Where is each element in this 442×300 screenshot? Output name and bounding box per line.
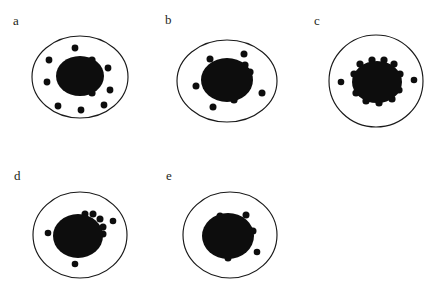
particle [210,104,217,111]
panel-label-c: c [314,13,320,28]
particle [72,45,79,52]
particle [259,90,266,97]
particle [78,107,85,114]
particle [44,79,51,86]
particle [90,211,97,218]
particle [72,261,79,268]
particle [411,77,418,84]
particle [110,218,117,225]
particle [254,249,261,256]
panel-label-e: e [166,168,172,183]
figure-canvas: abcde [0,0,442,300]
panel-label-d: d [14,168,21,183]
nucleus-e [202,213,254,259]
particle [97,216,104,223]
particle [107,87,114,94]
caption-partial-text [30,296,210,300]
panel-label-b: b [165,12,172,27]
panel-label-a: a [13,13,19,28]
nucleus-a [56,56,104,96]
nucleus-b [201,58,253,102]
particle [243,212,250,219]
particle [338,79,345,86]
nucleus-c [352,61,402,103]
particle [193,83,200,90]
figure-root: abcde [0,0,442,300]
particle [207,56,214,63]
particle [105,65,112,72]
particle [55,103,62,110]
nucleus-d [53,214,103,258]
particle [45,230,52,237]
particle [46,57,53,64]
particle [101,102,108,109]
particle [241,51,248,58]
